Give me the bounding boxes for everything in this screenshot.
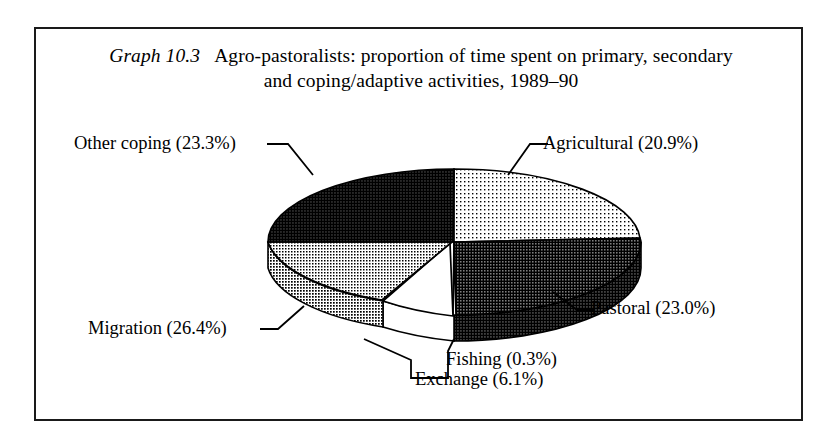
pie-slice-other-coping [268,169,454,242]
pie-label-pastoral: Pastoral (23.0%) [591,298,715,319]
pie-label-migration: Migration (26.4%) [88,318,227,339]
pie-chart-svg [36,29,801,419]
pie-label-agricultural: Agricultural (20.9%) [543,133,698,154]
pie-slice-agricultural [454,169,640,242]
pie-chart [36,29,801,419]
pie-label-exchange: Exchange (6.1%) [415,369,543,390]
pie-label-fishing: Fishing (0.3%) [446,349,557,370]
leader-line-other-coping [267,144,313,175]
pie-label-other-coping: Other coping (23.3%) [74,133,236,154]
leader-line-migration [260,306,304,329]
leader-line-agricultural [508,144,548,175]
figure-frame: Graph 10.3Agro-pastoralists: proportion … [34,27,803,421]
